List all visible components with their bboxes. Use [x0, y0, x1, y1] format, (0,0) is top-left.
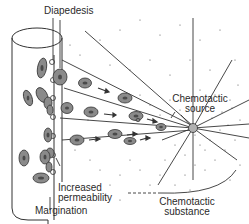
label-diapedesis: Diapedesis	[44, 6, 93, 16]
label-increased-permeability: Increased permeability	[58, 183, 112, 203]
label-chemotactic-substance-line2: substance	[150, 207, 224, 217]
label-margination: Margination	[35, 206, 87, 216]
label-chemotactic-source: Chemotactic source	[165, 94, 235, 114]
label-chemotactic-source-line2: source	[165, 104, 235, 114]
label-chemotactic-substance: Chemotactic substance	[150, 197, 224, 217]
vessel-cells	[19, 57, 54, 183]
label-increased-permeability-line2: permeability	[58, 193, 112, 203]
chemotactic-source-marker	[189, 124, 198, 133]
